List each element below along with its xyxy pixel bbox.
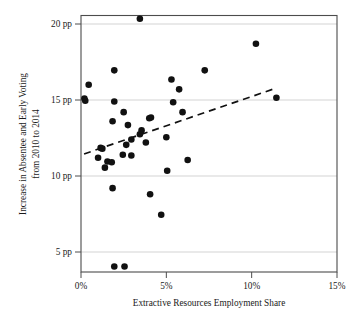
- data-point: [168, 76, 175, 83]
- y-axis-title-line1: Increase in Absentee and Early Voting: [18, 73, 28, 215]
- data-point: [95, 154, 102, 161]
- data-point: [163, 134, 170, 141]
- data-point: [102, 164, 109, 171]
- data-point: [137, 15, 144, 22]
- x-tick-label: 10%: [243, 281, 260, 291]
- data-point: [164, 167, 171, 174]
- data-point: [99, 145, 106, 152]
- data-point: [179, 109, 186, 116]
- data-point: [128, 136, 135, 143]
- data-point: [158, 211, 165, 218]
- data-point: [120, 151, 127, 158]
- data-point: [273, 94, 280, 101]
- y-tick-label: 10 pp: [51, 171, 72, 181]
- data-point: [176, 86, 183, 93]
- chart-background: [0, 0, 355, 319]
- data-point: [137, 131, 144, 138]
- chart-canvas: 5 pp10 pp15 pp20 pp 0%5%10%15% Extractiv…: [0, 0, 355, 319]
- x-tick-label: 5%: [160, 281, 173, 291]
- data-point: [253, 40, 260, 47]
- data-point: [125, 122, 132, 129]
- data-point: [201, 67, 208, 74]
- data-point: [121, 263, 128, 270]
- y-axis-title-line2: from 2010 to 2014: [31, 109, 41, 179]
- y-tick-label: 15 pp: [51, 95, 72, 105]
- x-tick-label: 0%: [75, 281, 88, 291]
- data-point: [109, 118, 116, 125]
- data-point: [147, 191, 154, 198]
- x-tick-label: 15%: [328, 281, 345, 291]
- data-point: [184, 157, 191, 164]
- x-axis-title: Extractive Resources Employment Share: [133, 298, 286, 308]
- data-point: [109, 185, 116, 192]
- data-point: [111, 67, 118, 74]
- data-point: [146, 115, 153, 122]
- y-tick-label: 20 pp: [51, 19, 72, 29]
- data-point: [85, 82, 92, 89]
- data-point: [170, 99, 177, 106]
- data-point: [143, 139, 150, 146]
- scatter-chart-figure: 5 pp10 pp15 pp20 pp 0%5%10%15% Extractiv…: [0, 0, 355, 319]
- data-point: [111, 98, 118, 105]
- data-point: [120, 109, 127, 116]
- y-tick-label: 5 pp: [56, 247, 73, 257]
- data-point: [128, 152, 135, 159]
- data-point: [82, 97, 89, 104]
- data-point: [123, 142, 130, 149]
- data-point: [111, 263, 118, 270]
- data-point: [108, 159, 115, 166]
